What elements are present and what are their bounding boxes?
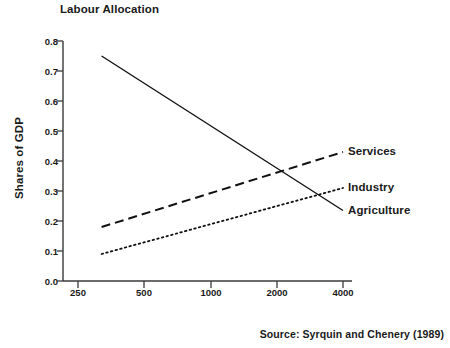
chart-figure: Labour Allocation Shares of GDP 0.80.70.… [0, 0, 450, 348]
series-line-services [102, 152, 343, 227]
y-axis-tick-marks [57, 41, 63, 281]
series-line-industry [102, 188, 343, 254]
x-axis-tick-marks [78, 281, 343, 288]
plot-area [0, 0, 450, 348]
series-label-industry: Industry [348, 181, 394, 193]
source-note: Source: Syrquin and Chenery (1989) [260, 328, 444, 340]
series-label-services: Services [348, 145, 396, 157]
series-line-agriculture [102, 56, 343, 211]
series-lines [102, 56, 343, 254]
series-label-agriculture: Agriculture [348, 204, 410, 216]
